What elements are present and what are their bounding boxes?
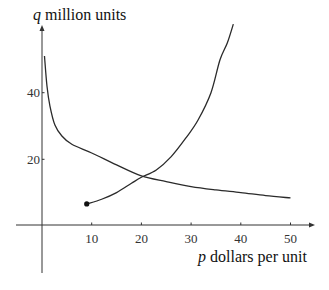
- curves: [44, 24, 290, 206]
- y-axis-variable: q: [33, 6, 41, 24]
- x-tick-label: 40: [234, 231, 247, 246]
- y-tick-label: 20: [27, 152, 40, 167]
- supply-curve: [87, 24, 234, 204]
- y-tick-label: 40: [27, 85, 40, 100]
- y-axis-title: q million units: [33, 6, 126, 24]
- ticks: [42, 93, 291, 225]
- x-axis-arrow: [309, 223, 315, 228]
- x-tick-label: 30: [185, 231, 198, 246]
- y-axis-arrow: [40, 25, 45, 31]
- x-tick-label: 10: [85, 231, 98, 246]
- chart: 10203040502040 q million units p dollars…: [0, 0, 329, 290]
- x-tick-label: 20: [135, 231, 148, 246]
- x-axis-variable: p: [197, 248, 206, 266]
- supply-start-point: [84, 201, 89, 206]
- x-axis-title-text: dollars per unit: [206, 248, 307, 266]
- y-axis-title-text: million units: [41, 6, 126, 23]
- x-tick-label: 50: [284, 231, 297, 246]
- demand-curve: [44, 56, 290, 198]
- x-axis-title: p dollars per unit: [197, 248, 307, 266]
